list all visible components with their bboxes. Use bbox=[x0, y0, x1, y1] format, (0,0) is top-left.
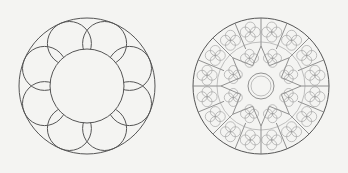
quatrefoil bbox=[282, 122, 302, 142]
petal-circle bbox=[107, 82, 151, 126]
simple-rose-window bbox=[19, 18, 155, 154]
outer-circle bbox=[19, 18, 155, 154]
central-star bbox=[221, 46, 301, 126]
quatrefoil bbox=[197, 65, 217, 85]
petal-group bbox=[23, 22, 152, 151]
quatrefoil bbox=[197, 87, 217, 107]
diagram-canvas bbox=[0, 0, 348, 173]
petal-circle bbox=[107, 46, 151, 90]
quatrefoil bbox=[282, 30, 302, 50]
quatrefoil bbox=[297, 107, 317, 127]
center-circle bbox=[50, 49, 124, 123]
petal-circle bbox=[83, 106, 127, 150]
quatrefoil bbox=[305, 87, 325, 107]
inner-ring-2 bbox=[251, 76, 271, 96]
petal-circle bbox=[23, 82, 67, 126]
ornate-rose-window bbox=[193, 18, 329, 154]
quatrefoil bbox=[240, 22, 260, 42]
quatrefoil bbox=[240, 130, 260, 150]
quatrefoil bbox=[205, 45, 225, 65]
quatrefoil bbox=[205, 107, 225, 127]
petal-circle bbox=[47, 106, 91, 150]
quatrefoil bbox=[220, 122, 240, 142]
petal-circle bbox=[47, 22, 91, 66]
inner-ring bbox=[248, 73, 274, 99]
quatrefoil bbox=[220, 30, 240, 50]
petal-circle bbox=[83, 22, 127, 66]
petal-circle bbox=[23, 46, 67, 90]
quatrefoil bbox=[262, 22, 282, 42]
quatrefoil bbox=[262, 130, 282, 150]
quatrefoil bbox=[297, 45, 317, 65]
quatrefoil bbox=[305, 65, 325, 85]
